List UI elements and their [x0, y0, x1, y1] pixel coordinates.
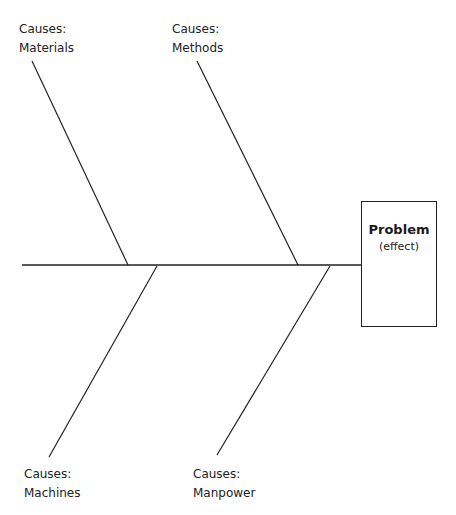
- effect-box: Problem (effect): [361, 201, 437, 327]
- cause-name: Machines: [24, 484, 80, 503]
- cause-materials-label: Causes: Materials: [19, 20, 74, 58]
- cause-name: Materials: [19, 39, 74, 58]
- cause-machines-label: Causes: Machines: [24, 465, 80, 503]
- cause-name: Methods: [172, 39, 223, 58]
- bone-manpower: [217, 266, 330, 455]
- cause-methods-label: Causes: Methods: [172, 20, 223, 58]
- effect-subtitle: (effect): [362, 240, 436, 253]
- cause-prefix: Causes:: [19, 20, 74, 39]
- cause-manpower-label: Causes: Manpower: [193, 465, 255, 503]
- bone-machines: [49, 266, 157, 457]
- cause-prefix: Causes:: [193, 465, 255, 484]
- cause-prefix: Causes:: [24, 465, 80, 484]
- cause-name: Manpower: [193, 484, 255, 503]
- effect-title: Problem: [362, 222, 436, 237]
- bone-materials: [32, 61, 128, 265]
- cause-prefix: Causes:: [172, 20, 223, 39]
- bone-methods: [197, 61, 298, 265]
